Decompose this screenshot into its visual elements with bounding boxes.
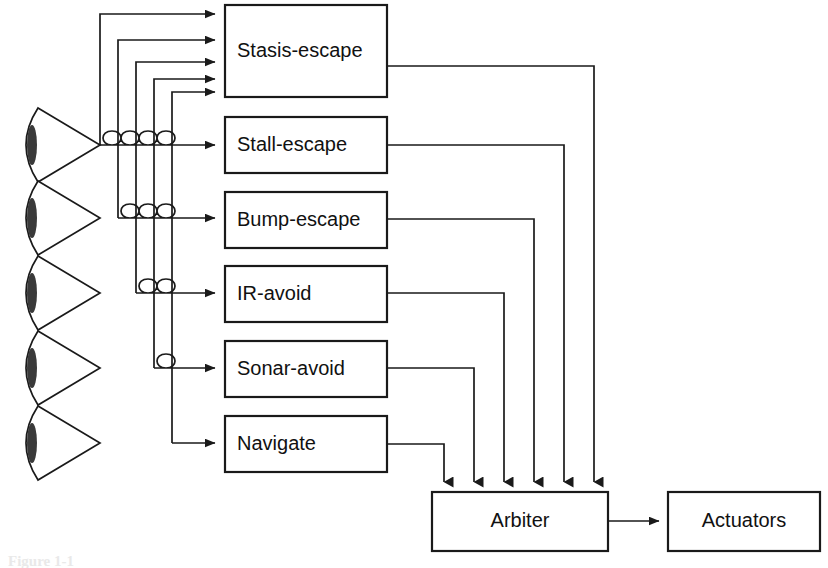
behavior-box-sonar-avoid[interactable]: Sonar-avoid: [225, 341, 387, 397]
sensor-riser-bus: [100, 14, 215, 443]
sensor-1: [26, 108, 100, 182]
behavior-label: IR-avoid: [237, 282, 311, 304]
output-ir-avoid-to-arbiter: [387, 293, 504, 482]
arbiter-box[interactable]: Arbiter: [432, 492, 608, 551]
subsumption-architecture-diagram: Stasis-escape Stall-escape Bump-escape I…: [0, 0, 828, 568]
output-sonar-avoid-to-arbiter: [387, 368, 474, 482]
actuators-box[interactable]: Actuators: [668, 492, 820, 551]
sensor-5: [26, 406, 100, 480]
behavior-boxes: Stasis-escape Stall-escape Bump-escape I…: [225, 5, 387, 472]
sensor-2: [26, 181, 100, 255]
behavior-label: Stasis-escape: [237, 39, 363, 61]
diagram-root: Stasis-escape Stall-escape Bump-escape I…: [0, 0, 828, 568]
actuators-label: Actuators: [702, 509, 786, 531]
output-bump-escape-to-arbiter: [387, 219, 534, 482]
sensor-core-icon: [27, 198, 37, 238]
behavior-box-bump-escape[interactable]: Bump-escape: [225, 192, 387, 248]
sensor-core-icon: [27, 423, 37, 463]
sensor-4: [26, 331, 100, 405]
sensor-core-icon: [27, 348, 37, 388]
behavior-box-navigate[interactable]: Navigate: [225, 416, 387, 472]
output-stall-escape-to-arbiter: [387, 145, 564, 482]
behavior-label: Sonar-avoid: [237, 357, 345, 379]
behavior-label: Bump-escape: [237, 208, 360, 230]
caption-ghost: Figure 1-1: [8, 553, 74, 568]
behavior-box-ir-avoid[interactable]: IR-avoid: [225, 266, 387, 322]
behavior-output-bus: [387, 66, 594, 482]
output-navigate-to-arbiter: [387, 444, 444, 482]
riser-sensor-4: [154, 79, 215, 368]
behavior-label: Stall-escape: [237, 133, 347, 155]
feed-sensor-2-to-bump-escape: [118, 204, 215, 218]
riser-sensor-2: [118, 40, 215, 218]
sensor-core-icon: [27, 273, 37, 313]
feed-sensor-3-to-ir-avoid: [136, 279, 215, 293]
feed-sensor-4-to-sonar-avoid: [154, 354, 215, 368]
arbiter-label: Arbiter: [491, 509, 550, 531]
riser-sensor-3: [136, 62, 215, 293]
sensor-core-icon: [27, 125, 37, 165]
behavior-box-stall-escape[interactable]: Stall-escape: [225, 117, 387, 173]
sensor-array: [26, 108, 100, 480]
output-stasis-escape-to-arbiter: [387, 66, 594, 482]
sensor-3: [26, 256, 100, 330]
behavior-label: Navigate: [237, 432, 316, 454]
behavior-box-stasis-escape[interactable]: Stasis-escape: [225, 5, 387, 97]
